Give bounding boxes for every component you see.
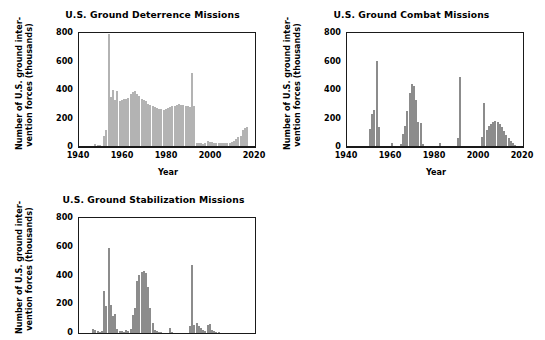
x-axis-tick-label: 1940 [332, 150, 360, 160]
y-axis-tick [78, 147, 79, 148]
x-axis-tick-label: 1940 [64, 150, 92, 160]
y-axis-tick [78, 33, 79, 34]
y-axis-label-line2: vention forces (thousands) [24, 20, 34, 150]
x-axis-label-deterrence: Year [128, 167, 208, 177]
x-axis-tick-label: 1960 [376, 150, 404, 160]
y-axis-label-line1: Number of U.S. ground inter- [282, 20, 292, 150]
y-axis-tick-label: 800 [47, 27, 73, 37]
y-axis-tick-label: 600 [47, 56, 73, 66]
bar [459, 77, 461, 147]
y-axis-tick [78, 119, 79, 120]
y-axis-tick [346, 62, 347, 63]
y-axis-label-line1: Number of U.S. ground inter- [14, 20, 24, 150]
y-axis-tick [346, 119, 347, 120]
bar [193, 106, 195, 147]
x-axis-tick-label: 1980 [420, 150, 448, 160]
y-axis-tick-label: 400 [315, 84, 341, 94]
x-axis-tick-label: 1960 [108, 150, 136, 160]
y-axis-tick-label: 600 [315, 56, 341, 66]
x-axis-tick [254, 147, 255, 148]
y-axis-tick-label: 200 [315, 113, 341, 123]
chart-panel-stabilization: U.S. Ground Stabilization Missions Numbe… [0, 186, 272, 340]
y-axis-tick [78, 333, 79, 334]
bar [191, 265, 193, 334]
y-axis-tick [78, 218, 79, 219]
chart-title-stabilization: U.S. Ground Stabilization Missions [46, 194, 261, 205]
x-axis-tick [479, 147, 480, 148]
x-axis-tick [347, 147, 348, 148]
y-axis-tick-label: 400 [47, 270, 73, 280]
y-axis-tick-label: 0 [47, 327, 73, 337]
y-axis-label-combat: Number of U.S. ground inter- vention for… [282, 20, 302, 150]
y-axis-tick-label: 400 [47, 84, 73, 94]
y-axis-label-stabilization: Number of U.S. ground inter- vention for… [14, 204, 34, 334]
x-axis-label-combat: Year [396, 167, 476, 177]
x-axis-tick-label: 2000 [464, 150, 492, 160]
y-axis-tick [346, 147, 347, 148]
plot-area-deterrence [78, 32, 256, 148]
y-axis-tick [346, 90, 347, 91]
x-axis-tick [435, 147, 436, 148]
x-axis-tick [167, 147, 168, 148]
bar-series-deterrence [79, 33, 255, 147]
axis-baseline [79, 333, 255, 334]
y-axis-tick [78, 247, 79, 248]
y-axis-tick [78, 276, 79, 277]
x-axis-tick [211, 147, 212, 148]
chart-title-combat: U.S. Ground Combat Missions [304, 9, 519, 20]
x-axis-tick-label: 2020 [240, 150, 268, 160]
x-axis-tick-label: 1980 [152, 150, 180, 160]
chart-title-deterrence: U.S. Ground Deterrence Missions [50, 9, 255, 20]
y-axis-tick [78, 62, 79, 63]
y-axis-label-line2: vention forces (thousands) [292, 20, 302, 150]
y-axis-label-line2: vention forces (thousands) [24, 204, 34, 334]
bar [378, 127, 380, 147]
x-axis-tick [522, 147, 523, 148]
x-axis-tick [391, 147, 392, 148]
y-axis-label-deterrence: Number of U.S. ground inter- vention for… [14, 20, 34, 150]
plot-area-stabilization [78, 217, 256, 334]
y-axis-tick-label: 200 [47, 113, 73, 123]
y-axis-tick [78, 90, 79, 91]
bar [246, 127, 248, 147]
y-axis-tick-label: 200 [47, 298, 73, 308]
plot-area-combat [346, 32, 524, 148]
x-axis-tick-label: 2000 [196, 150, 224, 160]
x-axis-tick [79, 147, 80, 148]
x-axis-tick [123, 147, 124, 148]
x-axis-tick-label: 2020 [508, 150, 536, 160]
y-axis-tick [78, 304, 79, 305]
y-axis-tick-label: 800 [315, 27, 341, 37]
y-axis-tick [346, 33, 347, 34]
y-axis-label-line1: Number of U.S. ground inter- [14, 204, 24, 334]
y-axis-tick-label: 800 [47, 212, 73, 222]
y-axis-tick-label: 600 [47, 241, 73, 251]
chart-panel-deterrence: U.S. Ground Deterrence Missions Number o… [0, 0, 272, 182]
chart-panel-combat: U.S. Ground Combat Missions Number of U.… [272, 0, 545, 182]
bar-series-stabilization [79, 218, 255, 334]
bar-series-combat [347, 33, 523, 147]
